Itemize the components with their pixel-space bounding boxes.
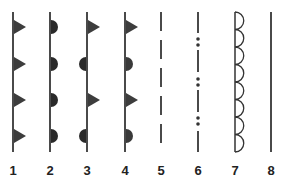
triangle-icon bbox=[14, 57, 26, 71]
semicircle-icon bbox=[126, 129, 133, 143]
triangle-icon bbox=[88, 20, 100, 34]
symbols-canvas bbox=[0, 0, 283, 183]
semicircle-icon bbox=[51, 20, 58, 34]
dot-icon bbox=[196, 37, 200, 41]
symbol-label-6: 6 bbox=[188, 163, 208, 178]
front-symbols-diagram: 1 2 3 4 5 6 7 8 bbox=[0, 0, 283, 183]
symbol-3-stationary-front bbox=[79, 12, 100, 152]
symbol-4-occluded-front bbox=[125, 12, 138, 152]
semicircle-icon bbox=[79, 129, 86, 143]
semicircle-icon bbox=[51, 57, 58, 71]
dot-icon bbox=[196, 83, 200, 87]
semicircle-icon bbox=[126, 57, 133, 71]
dot-icon bbox=[196, 43, 200, 47]
triangle-icon bbox=[14, 20, 26, 34]
symbol-label-5: 5 bbox=[151, 163, 171, 178]
symbol-6-dash-dot bbox=[196, 12, 200, 152]
scallop-icon bbox=[235, 12, 244, 152]
symbol-label-2: 2 bbox=[40, 163, 60, 178]
triangle-icon bbox=[126, 20, 138, 34]
symbol-label-4: 4 bbox=[115, 163, 135, 178]
symbol-label-3: 3 bbox=[77, 163, 97, 178]
triangle-icon bbox=[88, 93, 100, 107]
symbol-label-8: 8 bbox=[261, 163, 281, 178]
symbol-label-1: 1 bbox=[3, 163, 23, 178]
semicircle-icon bbox=[51, 129, 58, 143]
dot-icon bbox=[196, 122, 200, 126]
triangle-icon bbox=[14, 129, 26, 143]
symbol-7-scalloped bbox=[235, 12, 244, 152]
semicircle-icon bbox=[51, 93, 58, 107]
symbol-label-7: 7 bbox=[225, 163, 245, 178]
triangle-icon bbox=[14, 93, 26, 107]
semicircle-icon bbox=[79, 57, 86, 71]
dot-icon bbox=[196, 77, 200, 81]
dot-icon bbox=[196, 116, 200, 120]
triangle-icon bbox=[126, 93, 138, 107]
symbol-2-warm-front bbox=[50, 12, 58, 152]
symbol-1-cold-front bbox=[13, 12, 26, 152]
